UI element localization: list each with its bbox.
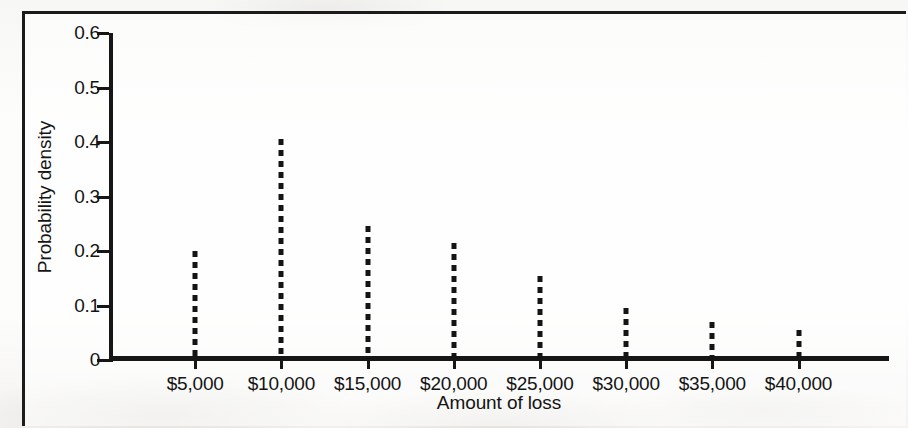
y-axis-tick-label: 0.5 bbox=[74, 77, 100, 99]
y-axis-tick-label: 0.2 bbox=[74, 240, 100, 262]
data-spike bbox=[537, 276, 542, 360]
y-axis-tick-label: 0.4 bbox=[74, 131, 100, 153]
figure-root: Probability density 00.10.20.30.40.50.6 … bbox=[0, 0, 908, 428]
data-spike bbox=[710, 322, 715, 360]
x-axis-title-label: Amount of loss bbox=[437, 392, 561, 413]
plot-area: 00.10.20.30.40.50.6 $5,000$10,000$15,000… bbox=[109, 33, 889, 360]
x-axis-tick-mark bbox=[280, 360, 283, 369]
data-spike bbox=[279, 139, 284, 360]
y-axis-tick-label: 0.1 bbox=[74, 295, 100, 317]
x-axis-tick-mark bbox=[453, 360, 456, 369]
y-axis-title-label: Probability density bbox=[34, 120, 56, 272]
data-spike bbox=[796, 330, 801, 360]
x-axis-tick-mark bbox=[798, 360, 801, 369]
y-axis-tick-label: 0.3 bbox=[74, 186, 100, 208]
data-spike bbox=[365, 226, 370, 360]
x-axis-tick-mark bbox=[625, 360, 628, 369]
x-axis-tick-mark bbox=[711, 360, 714, 369]
x-axis-tick-mark bbox=[539, 360, 542, 369]
y-axis-tick-label: 0.6 bbox=[74, 22, 100, 44]
x-axis-tick-mark bbox=[367, 360, 370, 369]
data-spike bbox=[193, 251, 198, 360]
data-spike bbox=[624, 308, 629, 360]
y-axis-title: Probability density bbox=[32, 33, 58, 360]
data-spike bbox=[451, 243, 456, 360]
x-axis-tick-mark bbox=[194, 360, 197, 369]
y-axis-tick-label: 0 bbox=[90, 349, 100, 371]
x-axis-title: Amount of loss bbox=[109, 392, 889, 414]
